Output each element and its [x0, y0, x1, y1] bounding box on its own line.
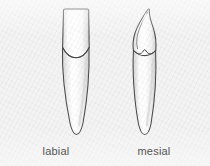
tooth-labial-view: [62, 9, 89, 135]
tooth-mesial-view: [133, 9, 156, 134]
view-captions: labial mesial: [0, 145, 210, 158]
labial-crown-shape: [63, 9, 90, 58]
tooth-illustration-canvas: [0, 0, 210, 166]
labial-crown-highlight: [68, 12, 69, 47]
caption-labial: labial: [25, 145, 87, 158]
caption-mesial: mesial: [123, 145, 185, 158]
tooth-anatomy-figure: labial mesial: [0, 0, 210, 166]
